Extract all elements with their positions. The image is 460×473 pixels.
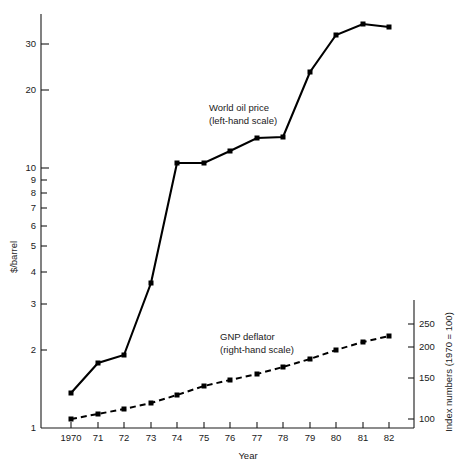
- x-tick-label-76: 76: [225, 432, 236, 443]
- data-point: [281, 135, 286, 140]
- left-tick-label-1: 1: [31, 422, 36, 433]
- oil-price-gnp-deflator-chart: 30 20 10 9 8 7 6 5 4 3 2 1 $/barrel: [0, 0, 460, 473]
- annotation-world-oil-price: World oil price (left-hand scale): [209, 102, 277, 126]
- x-tick-label-82: 82: [384, 432, 395, 443]
- data-point: [334, 33, 339, 38]
- right-axis: 250 200 150 100 Index numbers (1970 = 10…: [408, 300, 454, 432]
- left-tick-label-8: 8: [31, 187, 36, 198]
- right-axis-title: Index numbers (1970 = 100): [443, 312, 454, 432]
- data-point: [387, 25, 392, 30]
- x-tick-label-81: 81: [358, 432, 369, 443]
- left-tick-label-6: 6: [31, 220, 36, 231]
- annotation-gnp-deflator-line2: (right-hand scale): [220, 344, 294, 355]
- data-point: [387, 334, 392, 339]
- left-tick-label-10: 10: [25, 162, 36, 173]
- data-point: [175, 161, 180, 166]
- data-point: [228, 149, 233, 154]
- data-point: [149, 281, 154, 286]
- left-tick-label-3: 3: [31, 298, 36, 309]
- data-point: [96, 412, 101, 417]
- right-tick-label-100: 100: [419, 413, 435, 424]
- x-axis-tick-labels: 1970 71 72 73 74 75 76 77 78 79 80 81 82: [60, 432, 394, 443]
- right-tick-label-150: 150: [419, 372, 435, 383]
- data-point: [361, 340, 366, 345]
- x-tick-label-78: 78: [278, 432, 289, 443]
- x-tick-label-77: 77: [252, 432, 263, 443]
- x-axis: 1970 71 72 73 74 75 76 77 78 79 80 81 82…: [41, 422, 414, 461]
- x-tick-label-75: 75: [199, 432, 210, 443]
- data-point: [122, 353, 127, 358]
- x-tick-label-73: 73: [146, 432, 157, 443]
- data-point: [149, 401, 154, 406]
- left-tick-label-7: 7: [31, 202, 36, 213]
- chart-svg: 30 20 10 9 8 7 6 5 4 3 2 1 $/barrel: [0, 0, 460, 473]
- left-tick-label-30: 30: [25, 38, 36, 49]
- data-point: [361, 22, 366, 27]
- left-axis: 30 20 10 9 8 7 6 5 4 3 2 1 $/barrel: [8, 14, 49, 433]
- data-point: [255, 372, 260, 377]
- annotation-world-oil-price-line2: (left-hand scale): [209, 115, 277, 126]
- data-point: [175, 393, 180, 398]
- data-point: [202, 161, 207, 166]
- x-tick-label-71: 71: [93, 432, 104, 443]
- x-tick-label-74: 74: [172, 432, 183, 443]
- x-tick-label-80: 80: [331, 432, 342, 443]
- data-point: [96, 361, 101, 366]
- x-tick-label-79: 79: [305, 432, 316, 443]
- right-tick-label-200: 200: [419, 341, 435, 352]
- left-tick-label-20: 20: [25, 84, 36, 95]
- annotation-world-oil-price-line1: World oil price: [209, 102, 269, 113]
- left-tick-label-9: 9: [31, 174, 36, 185]
- data-point: [69, 391, 74, 396]
- annotation-gnp-deflator-line1: GNP deflator: [220, 331, 275, 342]
- data-point: [334, 348, 339, 353]
- data-point: [122, 407, 127, 412]
- x-tick-label-72: 72: [119, 432, 130, 443]
- data-point: [202, 384, 207, 389]
- data-point: [228, 378, 233, 383]
- left-tick-label-4: 4: [31, 266, 36, 277]
- data-point: [308, 357, 313, 362]
- x-axis-ticks: [71, 422, 389, 428]
- data-point: [255, 136, 260, 141]
- x-tick-label-1970: 1970: [60, 432, 81, 443]
- data-point: [281, 365, 286, 370]
- left-axis-title: $/barrel: [8, 241, 19, 273]
- right-tick-label-250: 250: [419, 318, 435, 329]
- annotation-gnp-deflator: GNP deflator (right-hand scale): [220, 331, 294, 355]
- left-tick-label-5: 5: [31, 240, 36, 251]
- left-tick-label-2: 2: [31, 344, 36, 355]
- data-point: [69, 417, 74, 422]
- x-axis-title: Year: [238, 450, 257, 461]
- data-point: [308, 70, 313, 75]
